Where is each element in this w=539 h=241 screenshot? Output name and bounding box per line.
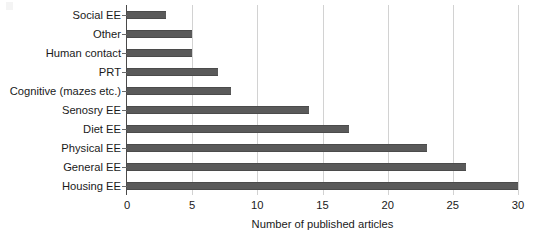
x-tick-label-10: 10 xyxy=(242,199,272,211)
x-axis-title: Number of published articles xyxy=(127,218,518,231)
category-label: General EE xyxy=(63,161,121,173)
y-axis-tick xyxy=(122,34,127,35)
bar xyxy=(127,30,192,38)
y-axis-tick xyxy=(122,53,127,54)
category-label: Human contact xyxy=(46,47,121,59)
bar xyxy=(127,106,309,114)
bar-chart: Social EEOtherHuman contactPRTCognitive … xyxy=(0,0,539,241)
bar xyxy=(127,144,427,152)
y-axis-tick xyxy=(122,148,127,149)
y-axis-tick xyxy=(122,72,127,73)
x-tick-label-25: 25 xyxy=(438,199,468,211)
bar xyxy=(127,182,518,190)
category-label: Physical EE xyxy=(61,142,121,154)
category-label: Diet EE xyxy=(83,123,121,135)
y-axis-tick xyxy=(122,186,127,187)
gridline-30 xyxy=(518,5,519,195)
category-label: Other xyxy=(93,28,121,40)
category-label: Housing EE xyxy=(62,180,121,192)
bar xyxy=(127,49,192,57)
y-axis-tick xyxy=(122,129,127,130)
x-tick-label-5: 5 xyxy=(177,199,207,211)
x-tick-label-30: 30 xyxy=(503,199,533,211)
bar xyxy=(127,68,218,76)
y-axis-category-labels: Social EEOtherHuman contactPRTCognitive … xyxy=(0,0,121,241)
category-label: Senosry EE xyxy=(62,104,121,116)
plot-area xyxy=(127,5,518,195)
x-tick-label-15: 15 xyxy=(308,199,338,211)
y-axis-tick xyxy=(122,167,127,168)
y-axis-tick xyxy=(122,15,127,16)
bar xyxy=(127,11,166,19)
category-label: Cognitive (mazes etc.) xyxy=(10,85,121,97)
bar xyxy=(127,87,231,95)
bar xyxy=(127,125,349,133)
x-tick-label-20: 20 xyxy=(373,199,403,211)
category-label: Social EE xyxy=(72,9,121,21)
x-tick-label-0: 0 xyxy=(112,199,142,211)
bar xyxy=(127,163,466,171)
y-axis-tick xyxy=(122,91,127,92)
y-axis-tick xyxy=(122,110,127,111)
category-label: PRT xyxy=(99,66,121,78)
